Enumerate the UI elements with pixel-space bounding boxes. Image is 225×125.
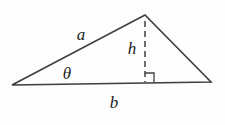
side-a-label: a [77,25,86,44]
triangle-outline [12,15,211,85]
theta-angle-label: θ [63,64,71,83]
right-angle-marker [145,73,154,83]
triangle-figure: a θ h b [0,0,225,125]
triangle-diagram-canvas: a θ h b [0,0,225,125]
base-b-label: b [110,93,119,112]
height-h-label: h [128,39,137,58]
